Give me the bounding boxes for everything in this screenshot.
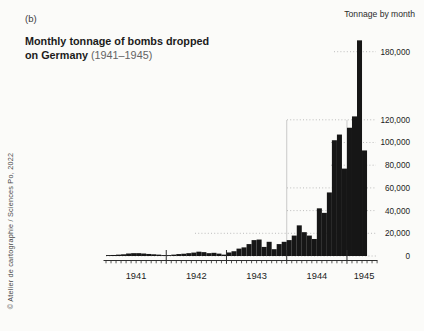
bar-1941-10 xyxy=(151,254,156,256)
bar-1944-8 xyxy=(322,213,327,256)
bar-1943-9 xyxy=(267,242,272,256)
bar-1941-5 xyxy=(126,254,131,256)
bar-1942-3 xyxy=(176,254,181,256)
x-tick-label-1941: 1941 xyxy=(126,271,147,281)
bar-chart: 19411942194319441945020,00040,00060,0008… xyxy=(0,0,424,331)
y-tick-label-0: 0 xyxy=(405,252,410,261)
bar-1943-4 xyxy=(242,247,247,256)
bar-1942-7 xyxy=(196,252,201,256)
bar-1943-5 xyxy=(247,244,252,256)
bar-1943-6 xyxy=(252,240,257,256)
bar-1944-11 xyxy=(337,135,342,256)
bar-1945-1 xyxy=(347,128,352,256)
bar-1943-8 xyxy=(262,247,267,256)
bar-1944-1 xyxy=(287,240,292,256)
bar-1941-7 xyxy=(136,253,141,256)
y-tick-label-40000: 40,000 xyxy=(385,207,410,216)
bar-1942-10 xyxy=(211,253,216,256)
bar-1941-9 xyxy=(146,254,151,256)
bar-1943-1 xyxy=(226,252,231,256)
bar-1941-4 xyxy=(121,254,126,256)
bar-1944-3 xyxy=(297,225,302,256)
bar-1944-7 xyxy=(317,208,322,256)
bar-1941-2 xyxy=(111,255,116,256)
bar-1942-6 xyxy=(191,253,196,256)
bar-1943-2 xyxy=(232,251,237,256)
bar-1942-4 xyxy=(181,254,186,256)
bar-1942-12 xyxy=(221,255,226,256)
bar-1941-6 xyxy=(131,253,136,256)
bar-1941-1 xyxy=(106,255,111,256)
y-tick-label-60000: 60,000 xyxy=(385,184,410,193)
x-tick-label-1944: 1944 xyxy=(307,271,328,281)
bar-1944-4 xyxy=(302,232,307,256)
bar-1943-12 xyxy=(282,242,287,256)
bar-1944-10 xyxy=(332,140,337,256)
bar-1942-2 xyxy=(171,255,176,256)
bar-1942-11 xyxy=(216,254,221,256)
bar-1941-8 xyxy=(141,254,146,256)
bar-1944-9 xyxy=(327,192,332,256)
bar-1942-1 xyxy=(166,255,171,256)
bar-1943-10 xyxy=(272,249,277,256)
bar-1945-4 xyxy=(362,150,367,256)
bar-1942-8 xyxy=(201,252,206,256)
bar-1941-12 xyxy=(161,255,166,256)
bar-1944-6 xyxy=(312,239,317,256)
x-tick-label-1945: 1945 xyxy=(354,271,375,281)
y-tick-label-120000: 120,000 xyxy=(380,116,410,125)
bar-1944-5 xyxy=(307,236,312,256)
y-tick-label-80000: 80,000 xyxy=(385,161,410,170)
y-tick-label-100000: 100,000 xyxy=(380,138,410,147)
bar-1944-2 xyxy=(292,236,297,256)
bar-1945-2 xyxy=(352,116,357,256)
bar-1944-12 xyxy=(342,169,347,256)
figure-panel: (b) Monthly tonnage of bombs dropped on … xyxy=(0,0,424,331)
bar-1941-11 xyxy=(156,255,161,256)
y-tick-label-180000: 180,000 xyxy=(380,48,410,57)
bar-1942-5 xyxy=(186,253,191,256)
x-tick-label-1943: 1943 xyxy=(246,271,267,281)
bar-1945-3 xyxy=(357,40,362,256)
bar-1942-9 xyxy=(206,253,211,256)
y-tick-label-20000: 20,000 xyxy=(385,229,410,238)
x-tick-label-1942: 1942 xyxy=(186,271,207,281)
bar-1943-11 xyxy=(277,244,282,256)
bar-1943-7 xyxy=(257,240,262,256)
bar-1943-3 xyxy=(237,249,242,256)
bar-1941-3 xyxy=(116,255,121,256)
